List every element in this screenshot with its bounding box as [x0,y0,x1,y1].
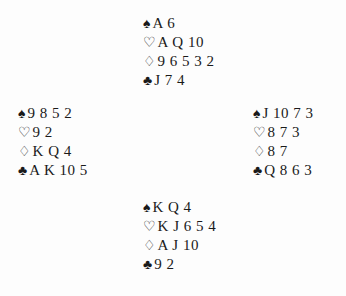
south-diamonds-cards: A J 10 [158,237,199,253]
south-clubs-cards: 9 2 [154,256,174,272]
diamond-icon: ♢ [143,236,156,255]
club-icon: ♣ [143,255,152,274]
north-spades-line: ♠A 6 [143,14,215,33]
south-spades-line: ♠K Q 4 [143,198,216,217]
west-hearts-cards: 9 2 [33,124,53,140]
north-hearts-line: ♡A Q 10 [143,33,215,52]
hand-north: ♠A 6 ♡A Q 10 ♢9 6 5 3 2 ♣J 7 4 [143,14,215,90]
west-diamonds-cards: K Q 4 [33,143,72,159]
west-hearts-line: ♡9 2 [18,123,88,142]
bridge-deal-diagram: ♠A 6 ♡A Q 10 ♢9 6 5 3 2 ♣J 7 4 ♠9 8 5 2 … [0,0,346,296]
east-clubs-cards: Q 8 6 3 [264,162,312,178]
west-diamonds-line: ♢K Q 4 [18,142,88,161]
west-spades-line: ♠9 8 5 2 [18,104,88,123]
east-diamonds-line: ♢8 7 [253,142,314,161]
south-spades-cards: K Q 4 [152,199,191,215]
west-clubs-cards: A K 10 5 [29,162,88,178]
heart-icon: ♡ [143,33,156,52]
diamond-icon: ♢ [18,142,31,161]
club-icon: ♣ [253,161,262,180]
north-diamonds-cards: 9 6 5 3 2 [158,53,215,69]
east-spades-cards: J 10 7 3 [262,105,313,121]
west-clubs-line: ♣A K 10 5 [18,161,88,180]
south-hearts-line: ♡K J 6 5 4 [143,217,216,236]
spade-icon: ♠ [253,104,260,123]
club-icon: ♣ [18,161,27,180]
hand-east: ♠J 10 7 3 ♡8 7 3 ♢8 7 ♣Q 8 6 3 [253,104,314,180]
heart-icon: ♡ [18,123,31,142]
south-hearts-cards: K J 6 5 4 [158,218,217,234]
diamond-icon: ♢ [143,52,156,71]
south-clubs-line: ♣9 2 [143,255,216,274]
spade-icon: ♠ [143,14,150,33]
spade-icon: ♠ [143,198,150,217]
north-diamonds-line: ♢9 6 5 3 2 [143,52,215,71]
east-clubs-line: ♣Q 8 6 3 [253,161,314,180]
north-spades-cards: A 6 [152,15,175,31]
south-diamonds-line: ♢A J 10 [143,236,216,255]
east-diamonds-cards: 8 7 [268,143,288,159]
hand-west: ♠9 8 5 2 ♡9 2 ♢K Q 4 ♣A K 10 5 [18,104,88,180]
west-spades-cards: 9 8 5 2 [27,105,72,121]
spade-icon: ♠ [18,104,25,123]
north-clubs-cards: J 7 4 [154,72,185,88]
heart-icon: ♡ [253,123,266,142]
east-spades-line: ♠J 10 7 3 [253,104,314,123]
diamond-icon: ♢ [253,142,266,161]
east-hearts-cards: 8 7 3 [268,124,301,140]
club-icon: ♣ [143,71,152,90]
north-clubs-line: ♣J 7 4 [143,71,215,90]
heart-icon: ♡ [143,217,156,236]
east-hearts-line: ♡8 7 3 [253,123,314,142]
north-hearts-cards: A Q 10 [158,34,204,50]
hand-south: ♠K Q 4 ♡K J 6 5 4 ♢A J 10 ♣9 2 [143,198,216,274]
